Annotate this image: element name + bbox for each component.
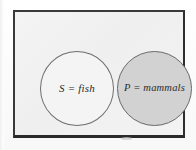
set-label-fish: S = fish xyxy=(59,82,95,94)
scan-smudge-artifact xyxy=(121,137,132,140)
set-circle-mammals: P = mammals xyxy=(117,51,192,126)
venn-diagram-figure: S = fish P = mammals xyxy=(0,0,196,150)
scan-edge-artifact xyxy=(0,0,4,150)
set-label-mammals: P = mammals xyxy=(124,82,185,93)
set-circle-fish: S = fish xyxy=(40,51,114,126)
universe-rectangle: S = fish P = mammals xyxy=(13,10,185,138)
